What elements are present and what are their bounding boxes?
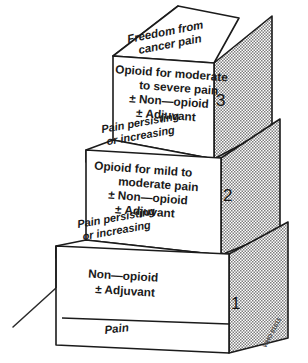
left-ground-guide [13, 288, 56, 327]
step-1-number: 1 [231, 294, 240, 313]
ladder-diagram: Freedom from cancer pain Opioid for mode… [0, 0, 308, 363]
step-1-riser [56, 246, 229, 353]
who-analgesic-ladder-figure: Freedom from cancer pain Opioid for mode… [0, 0, 308, 363]
step-3-number: 3 [216, 91, 225, 110]
step-1-riser-label-group: Non—opioid ± Adjuvant [87, 267, 159, 300]
step-2-number: 2 [223, 186, 232, 205]
